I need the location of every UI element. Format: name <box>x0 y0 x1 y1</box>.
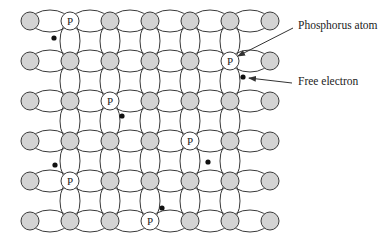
silicon-atom <box>141 52 159 70</box>
phosphorus-atom-symbol: P <box>67 175 73 187</box>
silicon-atom <box>261 172 279 190</box>
silicon-atom <box>101 132 119 150</box>
silicon-atom <box>21 52 39 70</box>
phosphorus-atom-symbol: P <box>187 135 193 147</box>
silicon-lattice-diagram: PPPPPP <box>0 0 387 243</box>
silicon-atom <box>101 52 119 70</box>
phosphorus-atom-symbol: P <box>67 15 73 27</box>
silicon-atom <box>61 52 79 70</box>
free-electron-dot <box>119 113 124 118</box>
free-electron-dot <box>159 205 164 210</box>
silicon-atom <box>61 92 79 110</box>
phosphorus-atom-label: Phosphorus atom <box>298 19 378 31</box>
free-electron-dot <box>51 35 56 40</box>
annotation-arrow <box>249 78 292 83</box>
silicon-atom <box>261 12 279 30</box>
silicon-atom <box>141 92 159 110</box>
silicon-atom <box>101 212 119 230</box>
silicon-atom <box>221 12 239 30</box>
silicon-atom <box>101 172 119 190</box>
silicon-atom <box>21 212 39 230</box>
silicon-atom <box>261 92 279 110</box>
silicon-atom <box>181 92 199 110</box>
silicon-atom <box>141 132 159 150</box>
free-electron-dot <box>240 74 245 79</box>
phosphorus-atom-symbol: P <box>227 55 233 67</box>
free-electron-dot <box>52 162 57 167</box>
silicon-atom <box>21 132 39 150</box>
silicon-atom <box>181 12 199 30</box>
silicon-atom <box>261 212 279 230</box>
silicon-atom <box>181 52 199 70</box>
silicon-atom <box>141 172 159 190</box>
silicon-atom <box>261 132 279 150</box>
silicon-atom <box>221 172 239 190</box>
silicon-atom <box>221 92 239 110</box>
silicon-atom <box>101 12 119 30</box>
silicon-atom <box>21 92 39 110</box>
free-electron-label: Free electron <box>298 75 358 87</box>
silicon-atom <box>141 12 159 30</box>
silicon-atom <box>21 12 39 30</box>
phosphorus-atom-symbol: P <box>147 215 153 227</box>
silicon-atom <box>261 52 279 70</box>
phosphorus-atom-symbol: P <box>107 95 113 107</box>
silicon-atom <box>61 132 79 150</box>
silicon-atom <box>221 132 239 150</box>
silicon-atom <box>181 212 199 230</box>
silicon-atom <box>61 212 79 230</box>
silicon-atom <box>181 172 199 190</box>
silicon-atom <box>221 212 239 230</box>
silicon-atom <box>21 172 39 190</box>
covalent-bonds <box>31 10 269 232</box>
free-electron-dot <box>205 159 210 164</box>
